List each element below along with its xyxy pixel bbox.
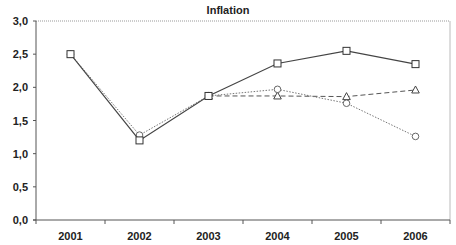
x-tick-label: 2004	[265, 230, 290, 242]
triangle-marker-icon	[412, 86, 420, 93]
x-tick-label: 2001	[58, 230, 82, 242]
inflation-chart: Inflation 0,00,51,01,52,02,53,0 20012002…	[0, 0, 456, 245]
chart-title: Inflation	[207, 4, 250, 16]
y-tick-label: 2,0	[13, 81, 28, 93]
y-tick-label: 0,0	[13, 214, 28, 226]
circle-marker-icon	[274, 86, 281, 93]
y-tick-label: 1,0	[13, 148, 28, 160]
x-tick-label: 2005	[334, 230, 358, 242]
y-tick-label: 3,0	[13, 15, 28, 27]
square-marker-icon	[412, 61, 419, 68]
plot-frame	[36, 21, 450, 220]
y-tick-label: 0,5	[13, 181, 28, 193]
x-axis: 200120022003200420052006	[33, 220, 450, 242]
x-tick-label: 2003	[196, 230, 220, 242]
x-tick-label: 2006	[403, 230, 427, 242]
square-marker-icon	[136, 137, 143, 144]
chart-canvas: Inflation 0,00,51,01,52,02,53,0 20012002…	[0, 0, 456, 245]
square-marker-icon	[67, 51, 74, 58]
y-tick-label: 1,5	[13, 115, 28, 127]
square-marker-icon	[205, 92, 212, 99]
y-axis: 0,00,51,01,52,02,53,0	[13, 15, 36, 226]
circle-marker-icon	[343, 100, 350, 107]
circle-marker-icon	[412, 133, 419, 140]
x-tick-label: 2002	[127, 230, 151, 242]
series-circle	[67, 51, 419, 140]
square-marker-icon	[274, 60, 281, 67]
series-layer	[67, 47, 419, 144]
square-marker-icon	[343, 47, 350, 54]
y-tick-label: 2,5	[13, 48, 28, 60]
